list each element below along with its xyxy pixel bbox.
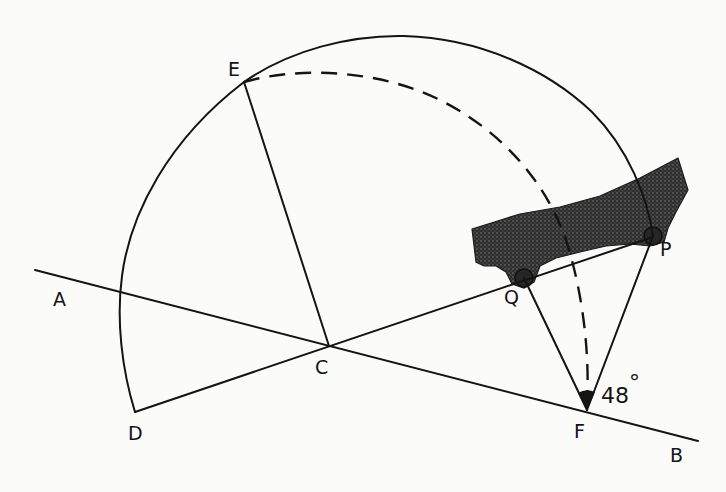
label-d: D — [128, 422, 143, 444]
line-ec — [244, 82, 329, 346]
angle-value: 48 — [601, 383, 629, 408]
angle-unit: ° — [629, 370, 640, 395]
label-f: F — [574, 420, 585, 442]
label-p: P — [660, 238, 671, 260]
label-q: Q — [504, 286, 519, 308]
line-qf — [524, 278, 587, 410]
line-ab — [35, 270, 698, 441]
label-c: C — [315, 356, 328, 378]
label-b: B — [670, 444, 683, 466]
label-e: E — [228, 58, 240, 80]
angle-wedge-f — [578, 390, 595, 410]
shaded-obstacle — [472, 158, 688, 288]
label-a: A — [53, 288, 66, 310]
geometry-diagram: A B C D E F P Q 48 ° — [0, 0, 726, 492]
